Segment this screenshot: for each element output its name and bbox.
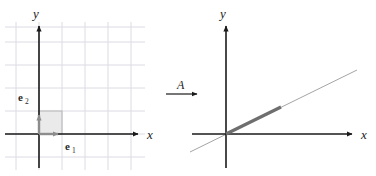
codomain-y-axis-label: y <box>218 6 226 21</box>
e2-label: e 2 <box>18 91 29 106</box>
transformation-arrow: A <box>166 78 197 94</box>
transformation-arrow-label: A <box>176 78 185 92</box>
svg-text:e: e <box>18 91 23 103</box>
diagram-svg: x y e 2 e 1 A x y <box>0 0 376 176</box>
domain-x-axis-label: x <box>146 127 153 142</box>
svg-text:e: e <box>65 140 70 152</box>
svg-text:2: 2 <box>25 97 29 106</box>
unit-square <box>39 111 62 134</box>
figure-canvas: x y e 2 e 1 A x y <box>0 0 376 176</box>
e1-label: e 1 <box>65 140 76 155</box>
svg-text:1: 1 <box>72 146 76 155</box>
collapsed-unit-square <box>226 107 281 134</box>
domain-y-axis-label: y <box>31 6 39 21</box>
codomain-x-axis-label: x <box>360 127 367 142</box>
